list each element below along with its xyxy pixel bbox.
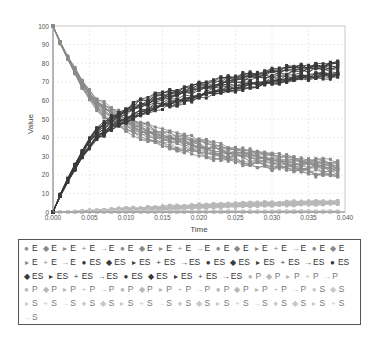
data-point [227,85,230,88]
legend-marker-icon: → [291,283,298,297]
legend-item-es: →ES [222,270,242,284]
data-point [307,79,310,82]
legend-label: P [281,284,287,294]
legend-item-e: →E [61,256,76,270]
data-point [161,135,164,138]
data-point [278,152,281,155]
data-point [190,149,193,152]
legend-marker-icon: ● [247,270,254,284]
data-point [278,73,281,76]
legend-marker-icon: → [100,242,107,256]
y-tick-label: 90 [42,41,50,48]
data-point [256,153,259,156]
chart-legend: ●E◆E▸E+E→E●E◆E▸E+E→E●E◆E▸E+E→E●E◆E▸E+E→E… [18,239,361,325]
data-point [322,171,325,174]
legend-marker-icon: ● [272,297,279,311]
legend-marker-icon: + [155,256,162,270]
legend-marker-icon: ◆ [234,283,241,297]
data-point [161,127,164,130]
data-point [161,95,164,98]
legend-marker-icon: + [176,283,183,297]
data-point [271,158,274,161]
data-point [212,78,215,81]
legend-label: ES [288,257,299,267]
legend-marker-icon: + [176,242,183,256]
data-point [336,168,339,171]
legend-label: ES [338,257,349,267]
data-point [278,79,281,82]
data-point [314,168,317,171]
legend-label: ES [139,257,150,267]
data-point [285,163,288,166]
legend-item-s: ▸S [23,297,38,311]
legend-marker-icon: → [253,297,260,311]
legend-label: E [320,243,326,253]
data-point [132,129,135,132]
data-point [59,193,62,196]
data-point [271,168,274,171]
legend-marker-icon: ▸ [157,283,164,297]
legend-label: S [262,298,268,308]
data-point [103,123,106,126]
data-point [154,140,157,143]
data-point [95,135,98,138]
legend-label: P [243,284,249,294]
legend-label: S [109,298,115,308]
data-point [285,166,288,169]
data-point [190,97,193,100]
legend-label: P [300,284,306,294]
legend-label: ES [214,257,225,267]
legend-marker-icon: ● [119,242,126,256]
y-tick-label: 50 [42,116,50,123]
legend-label: ES [206,271,217,281]
legend-item-es: ●ES [205,256,225,270]
data-point [176,204,179,207]
data-point [103,106,106,109]
legend-item-p: ▸P [285,270,300,284]
data-point [95,100,98,103]
legend-marker-icon: ● [23,242,30,256]
y-tick-label: 70 [42,78,50,85]
data-point [212,206,215,209]
data-point [139,104,142,107]
data-point [81,83,84,86]
data-point [212,154,215,157]
legend-marker-icon: ▸ [61,283,68,297]
data-point [329,164,332,167]
legend-item-p: +P [176,283,191,297]
x-tick-label: 0.040 [337,214,354,221]
data-point [322,202,325,205]
legend-item-p: +P [81,283,96,297]
data-point [110,106,113,109]
legend-item-e: +E [81,242,96,256]
data-point [322,75,325,78]
data-point [212,140,215,143]
data-point [190,143,193,146]
data-point [73,72,76,75]
legend-marker-icon: ▸ [253,242,260,256]
data-point [168,105,171,108]
legend-item-p: ●P [23,283,38,297]
legend-label: ES [82,271,93,281]
legend-marker-icon: + [272,242,279,256]
legend-marker-icon: ● [311,283,318,297]
x-tick-label: 0.025 [227,214,244,221]
legend-item-e: ◆E [42,242,57,256]
data-point [314,202,317,205]
legend-label: S [128,298,134,308]
legend-label: S [32,298,38,308]
data-point [307,64,310,67]
legend-marker-icon: → [291,242,298,256]
legend-marker-icon: ▸ [157,242,164,256]
data-point [263,151,266,154]
data-point [103,100,106,103]
legend-marker-icon: ▸ [253,283,260,297]
legend-item-es: →ES [304,256,324,270]
legend-label: E [128,243,134,253]
data-point [234,75,237,78]
data-point [241,201,244,204]
data-point [212,150,215,153]
data-point [314,72,317,75]
legend-item-p: +P [304,270,319,284]
y-tick-label: 80 [42,60,50,67]
